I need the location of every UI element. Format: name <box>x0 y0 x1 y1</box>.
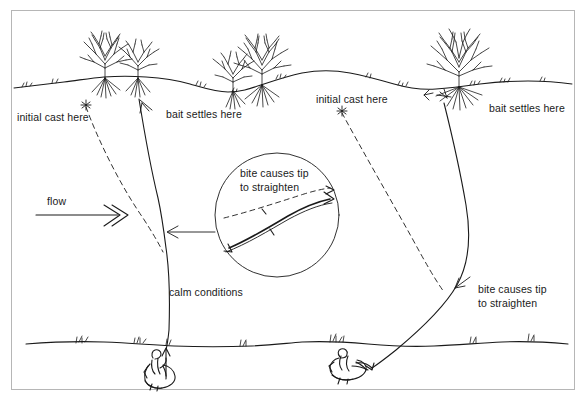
illustration: initial cast here bait settles here init… <box>0 0 588 407</box>
label-initial-cast-left: initial cast here <box>17 111 89 123</box>
far-bank-line <box>14 71 572 92</box>
label-inset-caption-line2: to straighten <box>240 181 299 193</box>
inset-pointer-arrow <box>167 226 215 238</box>
tree-far-bank-5 <box>427 29 492 110</box>
near-bank-line <box>26 334 568 347</box>
tree-far-bank-2 <box>119 39 159 97</box>
label-bite-straighten-right-line2: to straighten <box>478 297 537 309</box>
right-initial-cast-line <box>342 113 444 292</box>
tree-far-bank-3 <box>234 34 291 107</box>
flow-arrow <box>36 205 128 226</box>
right-settled-line <box>372 103 469 368</box>
cast-marker-right <box>337 106 347 116</box>
bait-settle-arrow-left <box>140 100 152 113</box>
label-inset-caption-line1: bite causes tip <box>240 167 309 179</box>
label-bait-settles-right: bait settles here <box>489 102 565 114</box>
left-initial-cast-line <box>86 107 163 252</box>
label-flow: flow <box>47 195 66 207</box>
tree-far-bank-1 <box>80 31 132 98</box>
angler-right <box>329 349 374 384</box>
label-bite-straighten-right-line1: bite causes tip <box>478 283 547 295</box>
diagram-canvas: initial cast here bait settles here init… <box>0 0 588 407</box>
angler-left <box>144 348 175 391</box>
label-calm-conditions: calm conditions <box>169 286 243 298</box>
bait-settle-arrow-right <box>424 89 451 100</box>
cast-marker-left <box>81 100 91 110</box>
label-initial-cast-right: initial cast here <box>316 93 388 105</box>
tree-far-bank-4 <box>213 51 254 109</box>
label-bait-settles-left: bait settles here <box>166 108 242 120</box>
left-settled-line <box>139 99 169 350</box>
right-bite-leader <box>455 277 470 288</box>
